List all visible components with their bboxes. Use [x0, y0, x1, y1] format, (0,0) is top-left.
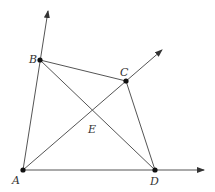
point-c	[123, 78, 128, 83]
label-a: A	[11, 174, 20, 187]
label-e: E	[87, 123, 96, 136]
point-d	[152, 167, 157, 172]
point-a	[20, 167, 25, 172]
label-d: D	[149, 175, 159, 188]
point-b	[37, 57, 42, 62]
segment-bd	[40, 60, 155, 170]
segment-bc	[40, 60, 126, 81]
label-b: B	[28, 53, 37, 66]
ray-ab	[23, 11, 48, 170]
geometry-diagram: A B C D E	[0, 0, 215, 192]
label-c: C	[120, 66, 129, 79]
